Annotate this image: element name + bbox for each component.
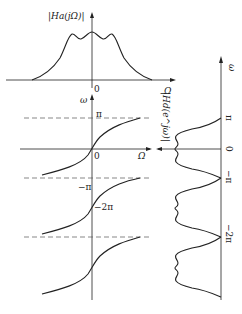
right-tick-neg-pi: −π xyxy=(224,170,234,184)
mapping-x-label: Ω xyxy=(137,151,146,161)
right-y-label: |Hd(e^jω)| xyxy=(160,92,171,142)
top-y-label: |Ha(jΩ)| xyxy=(48,11,85,22)
arrow-icon xyxy=(90,12,94,18)
digital-response-plot: ω |Hd(e^jω)| π 0 −π −2π xyxy=(156,56,237,300)
tick-neg-2pi: −2π xyxy=(94,202,113,212)
arrow-icon xyxy=(219,56,223,63)
frequency-mapping-plot: ω π 0 Ω −π −2π xyxy=(20,94,152,300)
mapping-origin-label: 0 xyxy=(94,151,100,161)
branch-neg4pi-curve xyxy=(42,237,140,294)
right-axis-label: ω xyxy=(227,64,237,72)
top-origin-label: 0 xyxy=(94,84,100,94)
arrow-icon xyxy=(170,78,176,82)
period-neg2pi-curve xyxy=(175,178,221,237)
bilinear-mapping-figure: |Ha(jΩ)| 0 Ω ω π 0 Ω −π −2π ω |Hd(e^jω)|… xyxy=(0,0,242,314)
period-neg4pi-curve xyxy=(175,237,221,297)
right-tick-zero: 0 xyxy=(224,146,234,152)
analog-response-plot: |Ha(jΩ)| 0 Ω xyxy=(6,11,176,96)
right-tick-neg-2pi: −2π xyxy=(224,224,234,243)
arrow-icon xyxy=(156,147,162,151)
period-0-curve xyxy=(175,118,221,178)
mapping-y-label: ω xyxy=(80,95,88,105)
arrow-icon xyxy=(90,94,94,100)
tick-pi: π xyxy=(96,109,102,119)
branch-0-curve xyxy=(42,118,140,175)
tick-neg-pi: −π xyxy=(78,182,92,192)
right-tick-pi: π xyxy=(224,115,234,121)
arrow-icon xyxy=(146,147,152,151)
